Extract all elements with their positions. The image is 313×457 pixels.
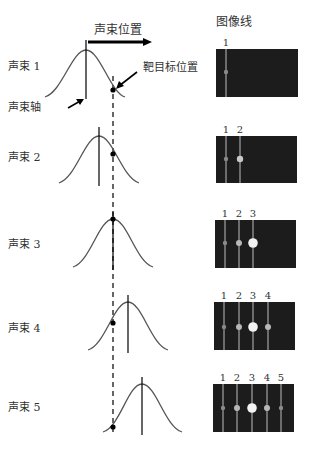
image-lines-label: 图像线 xyxy=(216,16,252,28)
line-number: 5 xyxy=(278,373,284,383)
image-panel-2 xyxy=(216,136,297,183)
beam-label-2: 声束 2 xyxy=(8,152,41,164)
line-number: 4 xyxy=(264,373,270,383)
beam-3 xyxy=(73,212,153,270)
beam-axis-arrow-icon xyxy=(68,99,84,108)
line-number: 2 xyxy=(234,373,240,383)
line-number: 2 xyxy=(236,291,242,301)
line-number: 3 xyxy=(250,291,256,301)
beam-label-1: 声束 1 xyxy=(8,61,41,73)
beam-axis-label: 声束轴 xyxy=(8,102,41,114)
beam-1 xyxy=(45,40,125,99)
line-number: 2 xyxy=(237,125,243,135)
line-number: 4 xyxy=(265,291,271,301)
line-number: 1 xyxy=(220,373,226,383)
beam-position-label: 声束位置 xyxy=(94,24,142,36)
target-position-label: 靶目标位置 xyxy=(143,62,198,74)
beam-label-4: 声束 4 xyxy=(8,323,41,335)
image-panel-4 xyxy=(214,302,295,350)
image-panel-3 xyxy=(215,220,296,268)
beam-4 xyxy=(88,295,168,353)
line-number: 3 xyxy=(249,373,255,383)
line-number: 3 xyxy=(250,209,256,219)
line-number: 1 xyxy=(223,38,229,48)
beam-2 xyxy=(59,127,139,186)
line-number: 1 xyxy=(221,291,227,301)
line-number: 2 xyxy=(236,209,242,219)
line-number: 1 xyxy=(223,125,229,135)
beam-label-3: 声束 3 xyxy=(8,239,41,251)
target-position-arrow-icon xyxy=(116,72,137,89)
line-number: 1 xyxy=(222,209,228,219)
beam-label-5: 声束 5 xyxy=(8,402,41,414)
beam-5 xyxy=(103,377,182,435)
image-panel-5 xyxy=(213,384,294,432)
beam-position-arrow-icon xyxy=(88,38,152,46)
image-panel-1 xyxy=(216,49,298,97)
